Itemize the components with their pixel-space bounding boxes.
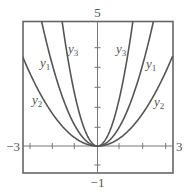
svg-text:y3: y3	[66, 41, 79, 58]
svg-text:y1: y1	[38, 55, 50, 72]
curve-label-y2-right: y2	[152, 94, 164, 111]
curve-label-y1-right: y1	[144, 56, 156, 73]
curve-label-y1-left: y1	[38, 55, 50, 72]
y-min-label: −1	[91, 175, 105, 190]
x-min-label: −3	[6, 139, 20, 154]
svg-text:y3: y3	[114, 41, 127, 58]
y-max-label: 5	[94, 5, 101, 20]
curve-label-y3-left: y3	[66, 41, 79, 58]
x-max-label: 3	[176, 139, 183, 154]
parabola-chart: 5 −1 −3 3 y3 y1 y2 y3 y1 y2	[0, 0, 188, 192]
curve-label-y3-right: y3	[114, 41, 127, 58]
svg-text:y2: y2	[152, 94, 164, 111]
svg-text:y1: y1	[144, 56, 156, 73]
